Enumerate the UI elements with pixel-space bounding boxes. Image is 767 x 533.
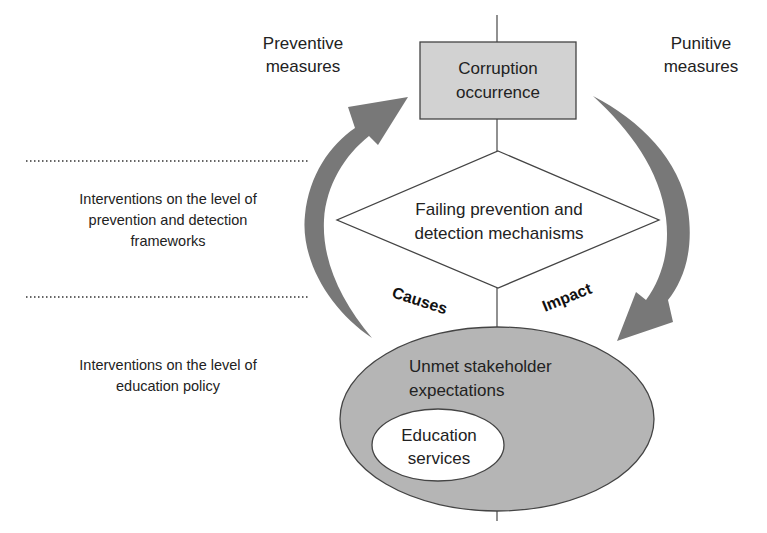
punitive-label-line2: measures — [664, 57, 739, 76]
causes-label: Causes — [390, 284, 449, 318]
level-frameworks-line2: prevention and detection — [89, 212, 248, 228]
failing-mechanisms-line1: Failing prevention and — [415, 200, 582, 219]
corruption-occurrence-box — [420, 42, 576, 119]
education-services-ellipse — [372, 409, 504, 481]
corruption-occurrence-line2: occurrence — [456, 83, 540, 102]
unmet-expectations-node: Unmet stakeholder expectations Education… — [340, 327, 654, 511]
impact-label: Impact — [540, 279, 595, 314]
corruption-occurrence-line1: Corruption — [458, 59, 537, 78]
preventive-label-line1: Preventive — [263, 34, 343, 53]
failing-mechanisms-diamond — [337, 151, 659, 288]
unmet-expectations-ellipse — [340, 327, 654, 511]
level-policy-line2: education policy — [116, 378, 221, 394]
unmet-expectations-line1: Unmet stakeholder — [409, 357, 552, 376]
corruption-cycle-diagram: Corruption occurrence Failing prevention… — [0, 0, 767, 533]
education-services-line2: services — [408, 449, 470, 468]
failing-mechanisms-node: Failing prevention and detection mechani… — [337, 151, 659, 288]
corruption-occurrence-node: Corruption occurrence — [420, 42, 576, 119]
level-frameworks-line1: Interventions on the level of — [79, 191, 257, 207]
level-policy-line1: Interventions on the level of — [79, 357, 257, 373]
education-services-line1: Education — [401, 426, 477, 445]
preventive-label-line2: measures — [266, 57, 341, 76]
punitive-label-line1: Punitive — [671, 34, 731, 53]
level-frameworks-line3: frameworks — [131, 233, 206, 249]
failing-mechanisms-line2: detection mechanisms — [414, 224, 583, 243]
unmet-expectations-line2: expectations — [409, 381, 504, 400]
